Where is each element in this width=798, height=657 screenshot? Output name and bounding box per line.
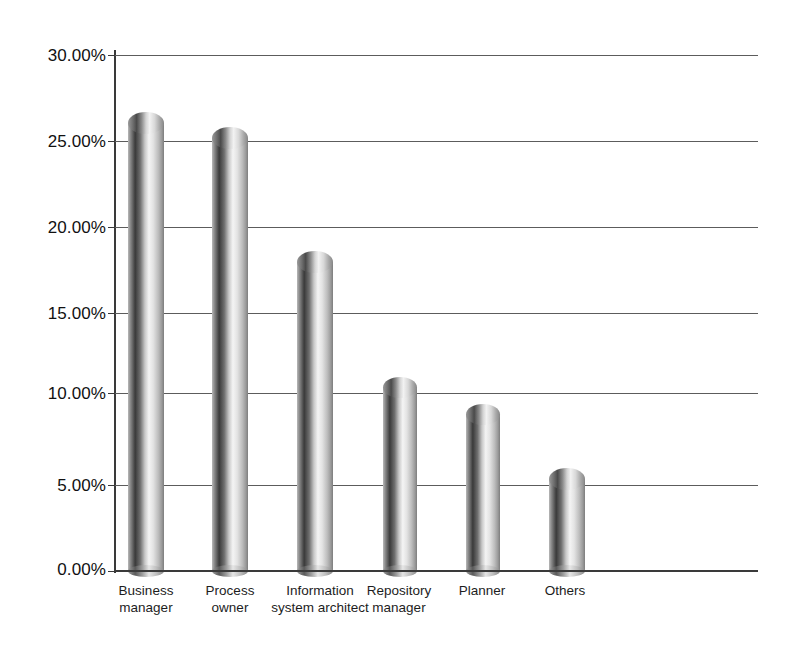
y-tick-label-25: 25.00%: [14, 132, 106, 152]
x-axis-baseline: [115, 570, 758, 572]
y-tick-label-30: 30.00%: [14, 46, 106, 66]
bar-others[interactable]: [549, 468, 585, 571]
y-axis-tick-labels: 30.00% 25.00% 20.00% 15.00% 10.00% 5.00%…: [0, 0, 106, 657]
y-tick-label-5: 5.00%: [14, 476, 106, 496]
bar-body: [128, 123, 164, 571]
bar-planner[interactable]: [466, 404, 500, 571]
bar-body: [297, 262, 333, 571]
bar-body: [466, 414, 500, 571]
bar-body: [549, 479, 585, 571]
bar-cap-ellipse: [383, 377, 417, 398]
bar-cap-ellipse: [549, 468, 585, 490]
bar-information-system-architect[interactable]: [297, 251, 333, 571]
bar-repository-manager[interactable]: [383, 377, 417, 571]
bar-cap-ellipse: [128, 112, 164, 134]
bar-cap-ellipse: [466, 404, 500, 425]
y-tick-label-15: 15.00%: [14, 304, 106, 324]
x-axis-category-labels: Business manager Process owner Informati…: [0, 582, 798, 642]
y-tick-label-0: 0.00%: [14, 560, 106, 580]
y-tick-label-10: 10.00%: [14, 384, 106, 404]
bar-body: [383, 387, 417, 571]
bar-cap-ellipse: [297, 251, 333, 273]
plot-area: [115, 55, 758, 571]
x-label-line-1: Others: [505, 582, 625, 599]
bar-cap-ellipse: [212, 127, 248, 149]
gridline-30: [115, 55, 758, 56]
bar-chart-figure: 30.00% 25.00% 20.00% 15.00% 10.00% 5.00%…: [0, 0, 798, 657]
bar-process-owner[interactable]: [212, 127, 248, 571]
bar-business-manager[interactable]: [128, 112, 164, 571]
x-label-others: Others: [505, 582, 625, 599]
x-label-line-2: manager: [339, 599, 459, 616]
bar-body: [212, 138, 248, 571]
y-tick-label-20: 20.00%: [14, 218, 106, 238]
